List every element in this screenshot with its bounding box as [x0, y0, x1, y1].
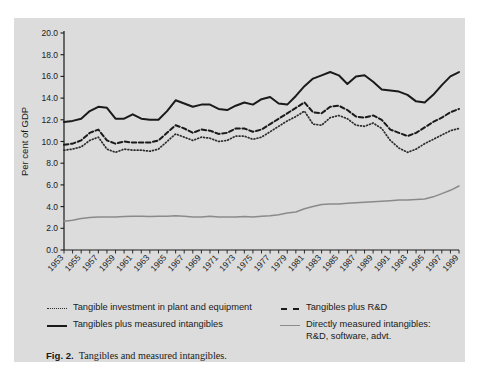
- figure-caption: Fig. 2.Tangibles and measured intangible…: [46, 350, 227, 361]
- x-axis-tick-label: 1971: [200, 252, 220, 273]
- legend-label: Tangible investment in plant and equipme…: [73, 302, 252, 314]
- x-axis-tick-label: 1991: [372, 252, 392, 273]
- y-axis-tick-label: 14.0: [41, 93, 58, 103]
- x-axis-tick-label: 1981: [286, 252, 306, 273]
- x-axis-tick-label: 1997: [423, 252, 443, 273]
- chart-series-line: [64, 186, 459, 221]
- x-axis-tick-label: 1963: [131, 252, 151, 273]
- x-axis-tick-label: 1955: [63, 252, 83, 273]
- x-axis-tick-label: 1995: [406, 252, 426, 273]
- legend-label: Directly measured intangibles: R&D, soft…: [306, 319, 431, 342]
- legend-label: Tangibles plus measured intangibles: [73, 319, 223, 331]
- x-axis-tick-label: 1987: [337, 252, 357, 273]
- line-chart: 0.02.04.06.08.010.012.014.016.018.020.0 …: [14, 18, 465, 280]
- chart-series-line: [64, 72, 459, 122]
- legend-swatch-solid-line-icon: [46, 320, 68, 331]
- y-axis-tick-label: 10.0: [41, 137, 58, 147]
- x-axis-tick-label: 1953: [45, 252, 65, 273]
- y-axis-tick-label: 20.0: [41, 28, 58, 38]
- x-axis-tick-label: 1983: [303, 252, 323, 273]
- chart-series-group: [64, 72, 459, 221]
- figure-caption-text: Tangibles and measured intangibles.: [79, 350, 227, 361]
- x-axis-tick-label: 1959: [97, 252, 117, 273]
- legend-swatch-gray-line-icon: [279, 320, 301, 331]
- x-axis-tick-label: 1977: [251, 252, 271, 273]
- y-axis-tick-label: 8.0: [46, 158, 58, 168]
- y-axis-tick-label: 6.0: [46, 180, 58, 190]
- legend-swatch-dashed-line-icon: [279, 303, 301, 314]
- legend-item-directly-measured-intangibles[interactable]: Directly measured intangibles: R&D, soft…: [279, 319, 464, 342]
- y-axis-tick-label: 16.0: [41, 71, 58, 81]
- figure-caption-label: Fig. 2.: [46, 350, 74, 361]
- legend-item-tangible-investment[interactable]: Tangible investment in plant and equipme…: [46, 302, 276, 314]
- x-axis-tick-label: 1993: [389, 252, 409, 273]
- x-axis-tick-label: 1975: [234, 252, 254, 273]
- x-axis-tick-label: 1989: [355, 252, 375, 273]
- y-axis-title: Per cent of GDP: [19, 107, 30, 176]
- y-axis-tick-label: 18.0: [41, 50, 58, 60]
- x-axis: 1953195519571959196119631965196719691971…: [45, 250, 460, 273]
- legend-item-tangibles-plus-rd[interactable]: Tangibles plus R&D: [279, 302, 464, 314]
- chart-series-line: [64, 111, 459, 152]
- x-axis-tick-label: 1973: [217, 252, 237, 273]
- figure-panel: 0.02.04.06.08.010.012.014.016.018.020.0 …: [14, 18, 465, 362]
- x-axis-tick-label: 1967: [166, 252, 186, 273]
- chart-legend: Tangible investment in plant and equipme…: [46, 302, 461, 344]
- x-axis-tick-label: 1969: [183, 252, 203, 273]
- y-axis: 0.02.04.06.08.010.012.014.016.018.020.0: [41, 28, 64, 255]
- legend-column-left: Tangible investment in plant and equipme…: [46, 302, 276, 336]
- y-axis-tick-label: 4.0: [46, 202, 58, 212]
- x-axis-tick-label: 1999: [440, 252, 460, 273]
- legend-label: Tangibles plus R&D: [306, 302, 387, 314]
- x-axis-tick-label: 1957: [80, 252, 100, 273]
- legend-column-right: Tangibles plus R&D Directly measured int…: [279, 302, 464, 347]
- x-axis-tick-label: 1985: [320, 252, 340, 273]
- legend-item-tangibles-plus-measured-intangibles[interactable]: Tangibles plus measured intangibles: [46, 319, 276, 331]
- y-axis-title-label: Per cent of GDP: [19, 107, 30, 176]
- y-axis-tick-label: 2.0: [46, 223, 58, 233]
- legend-swatch-dotted-line-icon: [46, 303, 68, 314]
- x-axis-tick-label: 1965: [148, 252, 168, 273]
- y-axis-tick-label: 12.0: [41, 115, 58, 125]
- chart-plot-area: 0.02.04.06.08.010.012.014.016.018.020.0 …: [14, 18, 465, 280]
- x-axis-tick-label: 1961: [114, 252, 134, 273]
- chart-series-line: [64, 102, 459, 144]
- x-axis-tick-label: 1979: [269, 252, 289, 273]
